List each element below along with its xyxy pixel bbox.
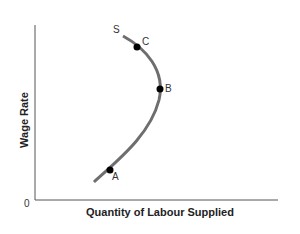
curve-label-s: S: [113, 25, 120, 35]
supply-curve: [94, 36, 160, 182]
y-axis-label: Wage Rate: [18, 90, 30, 150]
x-axis-label: Quantity of Labour Supplied: [0, 206, 300, 218]
point-b: [157, 86, 164, 93]
point-label-c: C: [142, 37, 149, 47]
point-c: [134, 44, 141, 51]
point-label-b: B: [165, 84, 172, 94]
point-label-a: A: [112, 172, 119, 182]
diagram-canvas: [0, 0, 300, 234]
